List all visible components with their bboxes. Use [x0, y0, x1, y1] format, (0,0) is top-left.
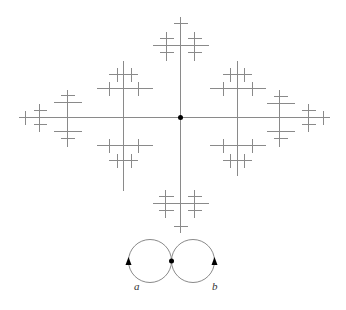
- arrow-up-icon: [126, 257, 132, 265]
- loop-a: [129, 240, 172, 283]
- loop-b: [172, 240, 215, 283]
- rose-vertex: [169, 259, 174, 264]
- arrow-up-icon: [212, 257, 218, 265]
- free-group-diagram: a b: [0, 0, 346, 310]
- label-a: a: [134, 280, 140, 292]
- label-b: b: [212, 280, 218, 292]
- cayley-tree: [19, 17, 330, 233]
- rose-with-two-petals: a b: [126, 240, 219, 293]
- identity-vertex: [178, 115, 183, 120]
